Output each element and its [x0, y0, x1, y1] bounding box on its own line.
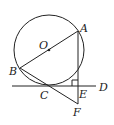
label-b: B [8, 65, 17, 78]
label-e: E [78, 88, 87, 101]
center-point-o [48, 49, 51, 52]
right-angle-mark [72, 80, 78, 86]
geometry-diagram: A O B C E D F [0, 0, 114, 125]
label-a: A [79, 22, 88, 35]
label-o: O [39, 39, 48, 52]
label-c: C [40, 89, 49, 102]
label-d: D [98, 81, 108, 94]
label-f: F [72, 106, 81, 119]
